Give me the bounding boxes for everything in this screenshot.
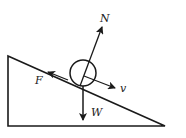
velocity-arrow: [84, 76, 115, 88]
weight-label: W: [91, 106, 104, 119]
velocity-label: v: [120, 82, 127, 95]
inclined-plane: [8, 56, 165, 126]
ball: [70, 60, 96, 86]
normal-force-arrow: [80, 27, 102, 86]
free-body-diagram: N F v W: [0, 0, 186, 138]
friction-force-label: F: [34, 74, 43, 87]
normal-force-label: N: [99, 12, 110, 25]
